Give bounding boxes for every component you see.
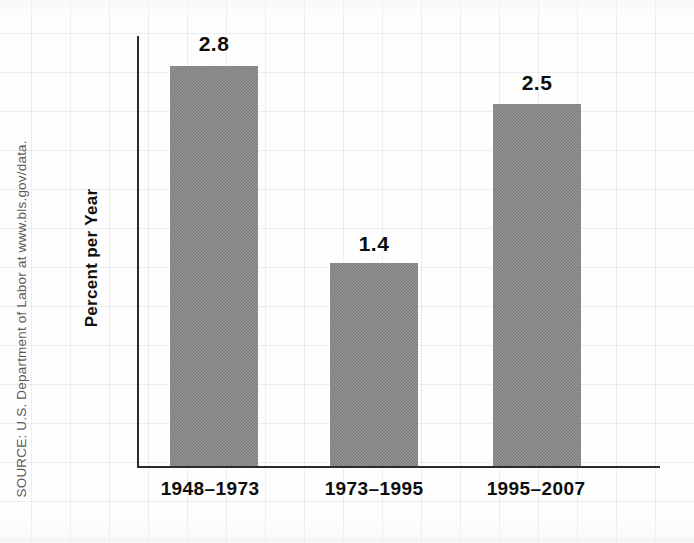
category-label-1973-1995: 1973–1995 (294, 478, 454, 500)
plot-area: 2.8 1.4 2.5 (137, 36, 660, 468)
y-axis-title: Percent per Year (82, 163, 102, 353)
bar-value-1973-1995: 1.4 (330, 232, 418, 256)
bar-value-1995-2007: 2.5 (493, 71, 581, 95)
x-axis-line (137, 466, 660, 468)
source-note: SOURCE: U.S. Department of Labor at www.… (14, 28, 29, 498)
chart-page: SOURCE: U.S. Department of Labor at www.… (0, 0, 694, 543)
category-label-1948-1973: 1948–1973 (130, 478, 290, 500)
bar-value-1948-1973: 2.8 (170, 32, 258, 56)
bar-1995-2007 (493, 104, 581, 466)
category-label-1995-2007: 1995–2007 (456, 478, 616, 500)
y-axis-line (137, 36, 139, 467)
bar-1948-1973 (170, 66, 258, 466)
bar-1973-1995 (330, 263, 418, 466)
